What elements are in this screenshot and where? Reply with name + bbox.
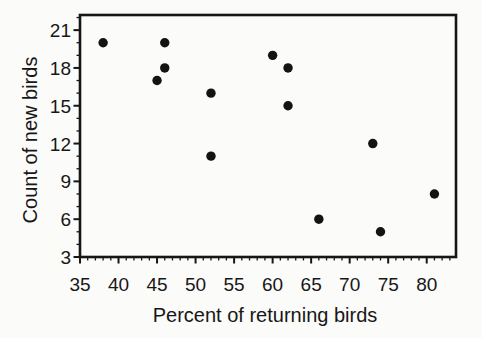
y-axis-title: Count of new birds (19, 57, 41, 224)
x-tick-label: 80 (416, 274, 437, 295)
x-tick-label: 70 (339, 274, 360, 295)
data-point (376, 227, 385, 236)
scatter-plot: 3540455055606570758036912151821 Percent … (0, 0, 482, 338)
data-point (268, 51, 277, 60)
plot-frame (80, 15, 456, 257)
y-tick-label: 12 (50, 134, 71, 155)
data-point (283, 63, 292, 72)
data-point (206, 151, 215, 160)
x-tick-label: 75 (378, 274, 399, 295)
scatter-plot-figure: 3540455055606570758036912151821 Percent … (0, 0, 482, 338)
x-tick-label: 35 (69, 274, 90, 295)
data-points (98, 38, 439, 236)
data-point (160, 38, 169, 47)
y-tick-label: 3 (60, 247, 71, 268)
x-tick-label: 50 (185, 274, 206, 295)
data-point (430, 189, 439, 198)
y-tick-label: 6 (60, 209, 71, 230)
minor-ticks (77, 18, 450, 261)
y-tick-label: 9 (60, 171, 71, 192)
data-point (368, 139, 377, 148)
data-point (283, 101, 292, 110)
x-tick-label: 45 (146, 274, 167, 295)
x-tick-label: 60 (262, 274, 283, 295)
data-point (160, 63, 169, 72)
x-tick-label: 55 (224, 274, 245, 295)
data-point (206, 88, 215, 97)
y-tick-label: 15 (50, 96, 71, 117)
data-point (314, 214, 323, 223)
tick-labels: 3540455055606570758036912151821 (50, 20, 437, 295)
data-point (98, 38, 107, 47)
x-tick-label: 65 (301, 274, 322, 295)
y-tick-label: 21 (50, 20, 71, 41)
y-tick-label: 18 (50, 58, 71, 79)
x-axis-title: Percent of returning birds (153, 304, 378, 326)
data-point (152, 76, 161, 85)
x-tick-label: 40 (108, 274, 129, 295)
